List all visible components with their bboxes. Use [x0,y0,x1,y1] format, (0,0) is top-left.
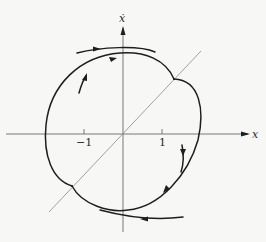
trajectory-upper-outer [77,48,155,53]
trajectory-lower-outer [100,210,183,218]
cusp-upper [173,78,175,80]
cusp-lower [71,185,73,187]
phase-plane-svg: x ẋ −1 1 [0,0,266,242]
arrow-right-icon [93,47,101,52]
switching-line [49,51,201,212]
arrow-up-icon [82,73,87,81]
tick-label-minus-one: −1 [76,136,92,149]
arrow-down-icon [180,149,186,156]
xdot-axis-label: ẋ [119,12,126,25]
tick-label-one: 1 [159,136,166,149]
x-axis-label: x [252,128,259,141]
arrow-right-icon [109,57,117,62]
xdot-axis-arrow-icon [121,26,126,35]
phase-plane-figure: x ẋ −1 1 [0,0,266,242]
x-axis-arrow-icon [241,132,250,137]
